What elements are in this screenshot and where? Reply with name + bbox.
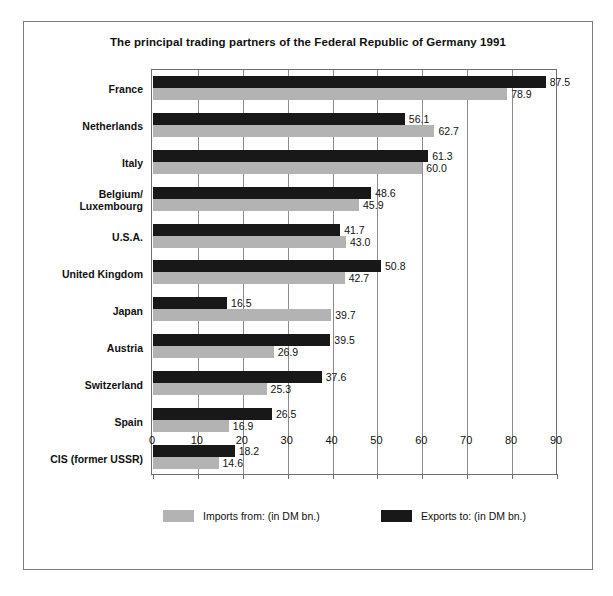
x-tick-label-60: 60 [415,434,427,446]
category-label-italy: Italy [122,157,143,169]
bar-imports[interactable]: 42.7 [153,272,345,284]
chart-row: U.S.A.41.743.0 [152,218,556,255]
chart-row: Austria39.526.9 [152,328,556,365]
legend-label-imports: Imports from: (in DM bn.) [203,510,320,522]
bar-value-exports: 50.8 [385,260,405,272]
x-tick-label-10: 10 [191,434,203,446]
bar-imports[interactable]: 14.6 [153,457,219,469]
bar-value-exports: 37.6 [326,371,346,383]
bar-value-imports: 78.9 [511,88,531,100]
bar-value-imports: 26.9 [278,346,298,358]
bar-imports[interactable]: 25.3 [153,383,267,395]
chart-row: Japan16.539.7 [152,291,556,328]
bar-imports[interactable]: 62.7 [153,125,434,137]
bar-value-exports: 41.7 [344,224,364,236]
bar-value-imports: 25.3 [271,383,291,395]
legend-item-exports[interactable]: Exports to: (in DM bn.) [381,510,526,522]
x-tick-label-90: 90 [550,434,562,446]
bar-exports[interactable]: 50.8 [153,260,381,272]
bar-value-exports: 16.5 [231,297,251,309]
x-tick-label-80: 80 [505,434,517,446]
x-tick-label-40: 40 [325,434,337,446]
category-label-u-s-a: U.S.A. [112,231,143,243]
legend-swatch-imports [163,510,194,522]
bar-value-exports: 87.5 [550,76,570,88]
x-tick-label-30: 30 [281,434,293,446]
bar-exports[interactable]: 37.6 [153,371,322,383]
legend-item-imports[interactable]: Imports from: (in DM bn.) [163,510,320,522]
category-label-belgium-luxembourg: Belgium/Luxembourg [79,188,143,212]
bar-value-imports: 39.7 [335,309,355,321]
legend-swatch-exports [381,510,412,522]
bar-imports[interactable]: 43.0 [153,236,346,248]
bar-value-imports: 42.7 [349,272,369,284]
category-label-cis-former-ussr: CIS (former USSR) [50,453,143,465]
chart-legend: Imports from: (in DM bn.)Exports to: (in… [151,510,557,532]
bar-exports[interactable]: 18.2 [153,445,235,457]
bar-imports[interactable]: 16.9 [153,420,229,432]
bar-value-imports: 62.7 [438,125,458,137]
x-tick-90 [557,474,558,479]
chart-row: Italy61.360.0 [152,144,556,181]
bar-imports[interactable]: 60.0 [153,162,422,174]
category-label-france: France [109,83,143,95]
chart-row: Switzerland37.625.3 [152,365,556,402]
chart-row: CIS (former USSR)18.214.6 [152,439,556,476]
plot-area: France87.578.9Netherlands56.162.7Italy61… [151,69,557,475]
category-label-spain: Spain [114,416,143,428]
chart-row: Netherlands56.162.7 [152,107,556,144]
category-label-united-kingdom: United Kingdom [62,268,143,280]
bar-exports[interactable]: 87.5 [153,76,546,88]
bar-exports[interactable]: 56.1 [153,113,405,125]
category-label-japan: Japan [113,305,143,317]
bar-value-imports: 43.0 [350,236,370,248]
x-tick-label-50: 50 [370,434,382,446]
bar-value-exports: 39.5 [334,334,354,346]
bar-imports[interactable]: 78.9 [153,88,507,100]
bar-value-exports: 48.6 [375,187,395,199]
x-tick-label-20: 20 [236,434,248,446]
bar-exports[interactable]: 39.5 [153,334,330,346]
bar-imports[interactable]: 26.9 [153,346,274,358]
bar-exports[interactable]: 61.3 [153,150,428,162]
bar-exports[interactable]: 48.6 [153,187,371,199]
bar-value-exports: 61.3 [432,150,452,162]
bar-value-exports: 18.2 [239,445,259,457]
category-label-switzerland: Switzerland [85,379,143,391]
bar-imports[interactable]: 39.7 [153,309,331,321]
chart-row: Belgium/Luxembourg48.645.9 [152,181,556,218]
chart-row: Spain26.516.9 [152,402,556,439]
bar-exports[interactable]: 26.5 [153,408,272,420]
bar-imports[interactable]: 45.9 [153,199,359,211]
category-label-netherlands: Netherlands [82,120,143,132]
bar-value-imports: 45.9 [363,199,383,211]
chart-title: The principal trading partners of the Fe… [24,36,592,48]
legend-label-exports: Exports to: (in DM bn.) [421,510,526,522]
bar-exports[interactable]: 41.7 [153,224,340,236]
bar-exports[interactable]: 16.5 [153,297,227,309]
bar-value-imports: 14.6 [223,457,243,469]
chart-row: United Kingdom50.842.7 [152,255,556,292]
chart-figure: The principal trading partners of the Fe… [23,21,593,570]
bar-value-imports: 60.0 [426,162,446,174]
bar-value-exports: 56.1 [409,113,429,125]
bar-value-imports: 16.9 [233,420,253,432]
chart-row: France87.578.9 [152,70,556,107]
x-tick-label-70: 70 [460,434,472,446]
category-label-austria: Austria [107,342,143,354]
bar-value-exports: 26.5 [276,408,296,420]
x-tick-label-0: 0 [149,434,155,446]
